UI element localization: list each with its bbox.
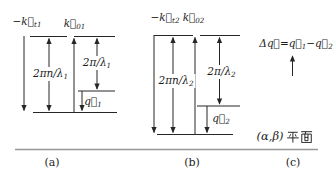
wavevector-diagram: −k⃗t1 k⃗01 2πn/λ1 2π/λ1 q⃗1 −k⃗t2 k⃗02 2… xyxy=(0,0,333,178)
pingmian-cjk-glyphs xyxy=(287,130,314,143)
alpha-beta-plane-label: (α,β) xyxy=(256,130,313,144)
caption-a: (a) xyxy=(44,157,59,170)
diagram-linework xyxy=(0,0,333,178)
b-k02-label: k⃗02 xyxy=(183,11,205,25)
b-neg-kt2-label: −k⃗t2 xyxy=(151,11,180,25)
b-2pin-over-lambda2-label: 2πn/λ2 xyxy=(156,74,195,88)
b-q2-label: q⃗2 xyxy=(212,112,230,126)
a-2pi-over-lambda1-label: 2π/λ1 xyxy=(81,56,113,70)
b-2pi-over-lambda2-label: 2π/λ2 xyxy=(205,65,237,79)
a-k01-label: k⃗01 xyxy=(64,17,86,31)
caption-b: (b) xyxy=(184,157,200,170)
a-2pin-over-lambda1-label: 2πn/λ1 xyxy=(31,67,70,81)
a-neg-kt1-label: −k⃗t1 xyxy=(13,15,42,29)
a-q1-label: q⃗1 xyxy=(84,95,102,109)
caption-c: (c) xyxy=(286,157,301,170)
c-delta-q-equation-label: Δq⃗=q⃗1−q⃗2 xyxy=(259,37,332,51)
alpha-beta-latin-text: (α,β) xyxy=(256,130,283,143)
